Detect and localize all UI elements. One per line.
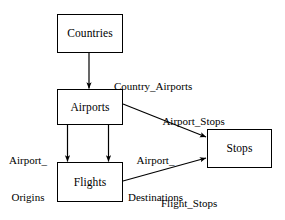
edge-label-airport-stops: Airport_Stops — [152, 103, 225, 140]
entity-box-flights[interactable]: Flights — [57, 162, 123, 202]
edge-label-flight-stops-line1: Flight_Stops — [161, 197, 217, 209]
edge-label-airport-destinations-line1: Airport_ — [128, 154, 183, 166]
edge-label-country-airports-line1: Country_Airports — [114, 80, 192, 92]
diagram-canvas: Countries Airports Flights Stops Country… — [0, 0, 285, 220]
entity-label-flights: Flights — [74, 176, 107, 189]
edge-label-airport-stops-line1: Airport_Stops — [162, 115, 224, 127]
edge-label-airport-origins: Airport_ Origins — [9, 129, 47, 220]
edge-label-airport-origins-line2: Origins — [9, 191, 47, 203]
edge-label-airport-origins-line1: Airport_ — [9, 154, 47, 166]
edge-label-flight-stops: Flight_Stops — [150, 185, 217, 220]
entity-label-countries: Countries — [67, 27, 113, 40]
entity-label-stops: Stops — [226, 142, 252, 155]
entity-box-countries[interactable]: Countries — [57, 14, 123, 53]
edge-label-country-airports: Country_Airports — [103, 68, 192, 105]
